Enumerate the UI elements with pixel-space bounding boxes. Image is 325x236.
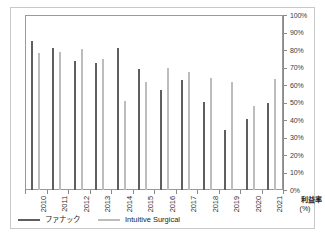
bar-2013-series-1 bbox=[95, 63, 97, 190]
x-axis-label-2015: 2015 bbox=[147, 196, 155, 212]
legend-label-1: ファナック bbox=[45, 216, 80, 224]
bars-layer bbox=[25, 15, 283, 190]
bar-group-2011 bbox=[47, 15, 69, 190]
chart-legend: ファナックIntuitive Surgical bbox=[18, 216, 180, 224]
bar-2020-series-1 bbox=[246, 119, 248, 190]
y-tick-10 bbox=[283, 173, 287, 174]
legend-item-1[interactable]: ファナック bbox=[18, 216, 80, 224]
x-tick-9 bbox=[219, 190, 220, 194]
x-axis-label-2020: 2020 bbox=[255, 196, 263, 212]
bar-group-2010 bbox=[25, 15, 47, 190]
bar-2016-series-1 bbox=[160, 90, 162, 190]
y-tick-80 bbox=[283, 50, 287, 51]
y-tick-label-50: 50% bbox=[290, 99, 303, 106]
legend-swatch-icon-2 bbox=[98, 219, 120, 221]
bar-group-2019 bbox=[219, 15, 241, 190]
y-tick-label-30: 30% bbox=[290, 134, 303, 141]
bar-2010-series-2 bbox=[38, 53, 40, 190]
bar-2018-series-1 bbox=[203, 102, 205, 190]
y-tick-70 bbox=[283, 68, 287, 69]
bar-group-2018 bbox=[197, 15, 219, 190]
x-axis-label-2010: 2010 bbox=[40, 196, 48, 212]
y-tick-label-10: 10% bbox=[290, 169, 303, 176]
bar-2021-series-1 bbox=[267, 103, 269, 190]
legend-item-2[interactable]: Intuitive Surgical bbox=[98, 216, 180, 224]
bar-2014-series-2 bbox=[124, 101, 126, 190]
x-axis-label-2014: 2014 bbox=[126, 196, 134, 212]
x-tick-6 bbox=[154, 190, 155, 194]
bar-2017-series-1 bbox=[181, 80, 183, 190]
bar-2011-series-1 bbox=[52, 48, 54, 190]
x-axis-label-2019: 2019 bbox=[233, 196, 241, 212]
bar-2019-series-2 bbox=[231, 82, 233, 191]
x-tick-4 bbox=[111, 190, 112, 194]
x-tick-7 bbox=[176, 190, 177, 194]
bar-2012-series-1 bbox=[74, 61, 76, 191]
bar-2018-series-2 bbox=[210, 78, 212, 190]
x-axis-label-2016: 2016 bbox=[169, 196, 177, 212]
bar-group-2012 bbox=[68, 15, 90, 190]
x-tick-8 bbox=[197, 190, 198, 194]
y-tick-50 bbox=[283, 103, 287, 104]
x-axis-label-2021: 2021 bbox=[276, 196, 284, 212]
y-axis-title-text: 利益率 bbox=[301, 196, 322, 203]
bar-2011-series-2 bbox=[59, 52, 61, 190]
bar-group-2020 bbox=[240, 15, 262, 190]
x-axis-label-2013: 2013 bbox=[104, 196, 112, 212]
y-tick-label-80: 80% bbox=[290, 47, 303, 54]
x-tick-1 bbox=[47, 190, 48, 194]
x-tick-0 bbox=[25, 190, 26, 194]
x-axis-label-2018: 2018 bbox=[212, 196, 220, 212]
x-axis-label-2017: 2017 bbox=[190, 196, 198, 212]
x-tick-12 bbox=[283, 190, 284, 194]
y-tick-label-20: 20% bbox=[290, 152, 303, 159]
x-tick-11 bbox=[262, 190, 263, 194]
x-tick-2 bbox=[68, 190, 69, 194]
y-tick-label-0: 0% bbox=[290, 187, 300, 194]
bar-2017-series-2 bbox=[188, 72, 190, 190]
x-tick-5 bbox=[133, 190, 134, 194]
y-tick-60 bbox=[283, 85, 287, 86]
y-tick-90 bbox=[283, 33, 287, 34]
y-tick-label-90: 90% bbox=[290, 29, 303, 36]
bar-group-2014 bbox=[111, 15, 133, 190]
bar-2010-series-1 bbox=[31, 41, 33, 190]
y-axis-title: 利益率 (%) bbox=[288, 196, 322, 214]
bar-group-2013 bbox=[90, 15, 112, 190]
y-tick-100 bbox=[283, 15, 287, 16]
x-axis-label-2012: 2012 bbox=[83, 196, 91, 212]
legend-label-2: Intuitive Surgical bbox=[125, 216, 180, 224]
bar-2014-series-1 bbox=[117, 48, 119, 190]
bar-2020-series-2 bbox=[253, 106, 255, 190]
bar-2019-series-1 bbox=[224, 130, 226, 190]
bar-2012-series-2 bbox=[81, 49, 83, 190]
y-tick-40 bbox=[283, 120, 287, 121]
bar-2016-series-2 bbox=[167, 68, 169, 191]
y-tick-label-100: 100% bbox=[290, 12, 307, 19]
bar-group-2021 bbox=[262, 15, 284, 190]
chart-container: 100%90%80%70%60%50%40%30%20%10%0% 201020… bbox=[0, 0, 325, 236]
x-tick-3 bbox=[90, 190, 91, 194]
y-tick-20 bbox=[283, 155, 287, 156]
y-tick-30 bbox=[283, 138, 287, 139]
x-axis-label-2011: 2011 bbox=[61, 196, 69, 212]
bar-2013-series-2 bbox=[102, 59, 104, 190]
bar-group-2016 bbox=[154, 15, 176, 190]
bar-2015-series-2 bbox=[145, 82, 147, 191]
y-axis-title-unit: (%) bbox=[288, 205, 322, 214]
y-tick-label-70: 70% bbox=[290, 64, 303, 71]
bar-2021-series-2 bbox=[274, 79, 276, 190]
y-tick-label-40: 40% bbox=[290, 117, 303, 124]
y-tick-label-60: 60% bbox=[290, 82, 303, 89]
bar-group-2017 bbox=[176, 15, 198, 190]
bar-2015-series-1 bbox=[138, 69, 140, 190]
x-tick-10 bbox=[240, 190, 241, 194]
legend-swatch-icon-1 bbox=[18, 219, 40, 221]
bar-group-2015 bbox=[133, 15, 155, 190]
